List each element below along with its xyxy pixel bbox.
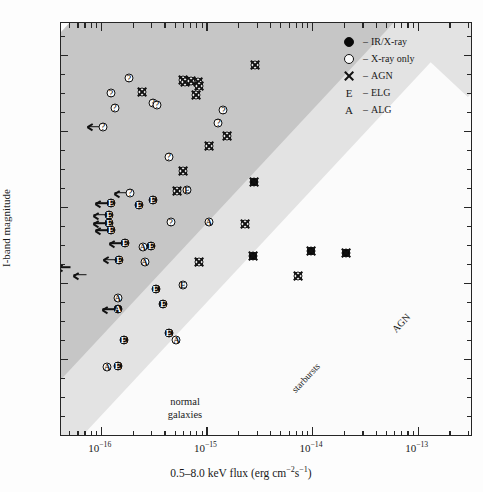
y-tick [61, 150, 65, 151]
glyph-unidentified: ? [216, 118, 220, 128]
y-tick [61, 435, 68, 436]
marker-agn-cross [249, 59, 261, 71]
y-tick [61, 397, 65, 398]
x-tick-base: 10 [194, 442, 205, 454]
marker-ir-xray: E [119, 336, 128, 345]
glyph-unidentified: ? [101, 122, 105, 132]
y-tick-right [467, 397, 471, 398]
glyph-elg: E [160, 299, 166, 308]
x-tick-top [394, 23, 395, 28]
cross-shape-inner [343, 70, 355, 82]
glyph-elg: E [150, 195, 156, 204]
letter-shape: E [346, 87, 353, 99]
marker-agn-cross [190, 89, 202, 101]
x-tick [69, 431, 70, 436]
legend-item-agn: –AGN [338, 67, 415, 84]
x-title-post: ) [308, 467, 312, 479]
letter-e-icon: E [338, 84, 360, 101]
normal-galaxies-line2: galaxies [168, 409, 202, 420]
y-tick [61, 264, 65, 265]
marker-agn-cross [239, 218, 251, 230]
y-tick [61, 188, 65, 189]
x-tick-top [418, 23, 419, 31]
x-tick [164, 431, 165, 436]
marker-xray-only: A [113, 293, 122, 302]
glyph-alg: A [140, 243, 147, 252]
marker-xray-only: E [183, 186, 192, 195]
filled-circle-icon [338, 33, 360, 50]
y-tick-right [467, 226, 471, 227]
x-tick-top [196, 23, 197, 28]
y-tick [61, 131, 68, 132]
legend-label: ELG [371, 87, 390, 98]
y-tick [61, 93, 65, 94]
x-tick [296, 431, 297, 436]
x-tick [307, 431, 308, 436]
glyph-elg: E [108, 225, 114, 234]
letter-shape: A [345, 104, 353, 116]
x-tick [386, 431, 387, 436]
glyph-elg: E [153, 284, 159, 293]
x-tick-top [344, 23, 345, 28]
marker-agn-cross [203, 140, 215, 152]
y-tick-right [467, 321, 471, 322]
x-tick [407, 431, 408, 436]
y-tick-right [467, 36, 471, 37]
legend-item-alg: A–ALG [338, 101, 415, 118]
x-tick [91, 431, 92, 436]
x-tick-top [202, 23, 203, 28]
letter-a-icon: A [338, 101, 360, 118]
glyph-elg: E [184, 186, 190, 195]
x-tick-top [183, 23, 184, 28]
x-tick [302, 431, 303, 436]
x-tick [468, 431, 469, 436]
x-tick [257, 431, 258, 436]
y-tick [61, 321, 65, 322]
marker-agn-cross [305, 245, 317, 257]
x-tick-top [164, 23, 165, 28]
x-tick-top [175, 23, 176, 28]
glyph-elg: E [122, 239, 128, 248]
x-tick [289, 431, 290, 436]
x-tick-top [238, 23, 239, 28]
x-tick-label: 10−13 [405, 440, 428, 454]
marker-xray-only: A [204, 217, 213, 226]
glyph-alg: A [115, 304, 122, 313]
normal-galaxies-line1: normal [170, 396, 200, 407]
marker-agn-cross [292, 270, 304, 282]
marker-xray-only: A [103, 362, 112, 371]
x-tick [344, 431, 345, 436]
legend-dash: – [360, 36, 371, 47]
y-tick [61, 416, 65, 417]
legend-item-x-ray-only: –X-ray only [338, 50, 415, 67]
glyph-alg: A [104, 362, 111, 371]
x-tick-top [133, 23, 134, 28]
marker-xray-only: ? [152, 100, 161, 109]
y-tick-right [467, 93, 471, 94]
glyph-elg: E [115, 361, 121, 370]
x-tick [175, 431, 176, 436]
y-tick-right [464, 283, 471, 284]
glyph-elg: E [108, 199, 114, 208]
x-tick-exponent: −16 [99, 440, 111, 449]
y-tick-right [467, 169, 471, 170]
y-tick-right [467, 150, 471, 151]
x-tick-base: 10 [300, 442, 311, 454]
glyph-alg: A [115, 293, 122, 302]
marker-xray-only: E [178, 281, 187, 290]
marker-ir-xray: A [113, 304, 122, 313]
glyph-elg: E [166, 329, 172, 338]
x-tick-base: 10 [405, 442, 416, 454]
marker-xray-only: ? [107, 89, 116, 98]
y-tick-right [464, 359, 471, 360]
x-tick [190, 431, 191, 436]
x-tick-top [257, 23, 258, 28]
y-tick [61, 283, 68, 284]
marker-xray-only: ? [99, 122, 108, 131]
y-tick-right [464, 55, 471, 56]
x-tick-exponent: −14 [311, 440, 323, 449]
marker-ir-xray: E [134, 201, 143, 210]
y-tick [61, 226, 65, 227]
x-tick-top [401, 23, 402, 28]
cross-icon [338, 67, 360, 84]
